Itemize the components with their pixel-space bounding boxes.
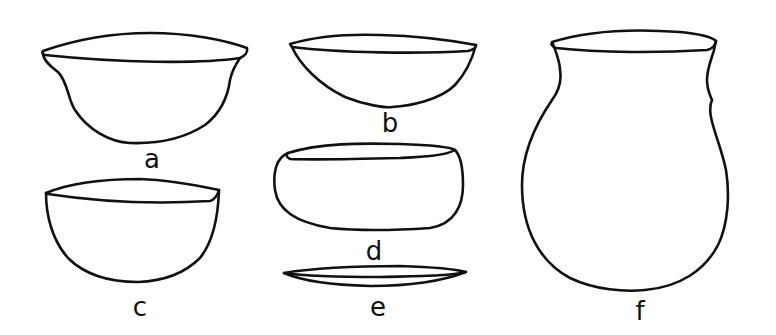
vessel-e — [284, 266, 466, 286]
label-c: c — [133, 294, 147, 320]
vessel-f — [522, 31, 728, 291]
pottery-figure — [0, 0, 776, 335]
label-b: b — [382, 110, 399, 136]
vessel-c — [46, 179, 219, 282]
label-d: d — [366, 238, 383, 264]
label-f: f — [635, 298, 644, 324]
vessel-a — [42, 33, 247, 143]
label-e: e — [370, 294, 386, 320]
label-a: a — [144, 146, 160, 172]
vessel-d — [274, 144, 463, 230]
vessel-b — [290, 35, 476, 107]
